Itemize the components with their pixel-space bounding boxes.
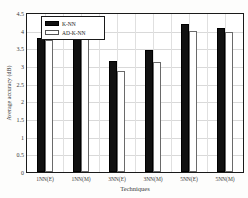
y-tick-label: 4 <box>21 29 24 35</box>
legend-item-knn: K-NN <box>45 19 101 28</box>
y-tick-label: 4.5 <box>17 11 25 17</box>
v-gridline <box>207 14 208 172</box>
knn-swatch-icon <box>45 21 59 26</box>
x-axis-label: Techniques <box>26 185 244 192</box>
bar-AD-K-NN-3NN(M) <box>153 62 161 172</box>
bar-AD-K-NN-5NN(E) <box>189 31 197 172</box>
adknn-swatch-icon <box>45 30 59 35</box>
legend-label-adknn: AD-K-NN <box>62 30 86 36</box>
x-tick-label: 3NN(E) <box>108 176 126 182</box>
y-axis-label: Average accuracy (dB) <box>6 58 12 128</box>
y-tick-label: 0 <box>21 170 24 176</box>
bar-chart-figure: Average accuracy (dB) 00.511.522.533.544… <box>0 0 248 198</box>
x-tick-label: 1NN(E) <box>36 176 54 182</box>
bar-K-NN-5NN(E) <box>181 24 189 172</box>
v-gridline <box>171 14 172 172</box>
x-tick-label: 3NN(M) <box>143 176 162 182</box>
y-tick-label: 3.5 <box>17 46 25 52</box>
bar-AD-K-NN-5NN(M) <box>225 32 233 172</box>
bar-K-NN-3NN(M) <box>145 50 153 172</box>
y-tick-label: 1 <box>21 135 24 141</box>
x-tick-label: 5NN(M) <box>215 176 234 182</box>
y-tick-label: 2.5 <box>17 82 25 88</box>
y-tick-label: 0.5 <box>17 152 25 158</box>
x-tick-label: 1NN(M) <box>71 176 90 182</box>
y-tick-label: 2 <box>21 99 24 105</box>
y-tick-label: 3 <box>21 64 24 70</box>
bar-AD-K-NN-1NN(E) <box>45 40 53 173</box>
bar-K-NN-3NN(E) <box>109 61 117 172</box>
y-tick-label: 1.5 <box>17 117 25 123</box>
bar-K-NN-5NN(M) <box>217 28 225 172</box>
bar-K-NN-1NN(E) <box>37 38 45 172</box>
bar-AD-K-NN-1NN(M) <box>81 39 89 172</box>
plot-area: K-NN AD-K-NN <box>26 13 244 173</box>
v-gridline <box>135 14 136 172</box>
legend: K-NN AD-K-NN <box>41 16 105 40</box>
bar-AD-K-NN-3NN(E) <box>117 71 125 172</box>
legend-item-adknn: AD-K-NN <box>45 28 101 37</box>
legend-label-knn: K-NN <box>62 21 76 27</box>
x-tick-label: 5NN(E) <box>180 176 198 182</box>
bar-K-NN-1NN(M) <box>73 37 81 172</box>
